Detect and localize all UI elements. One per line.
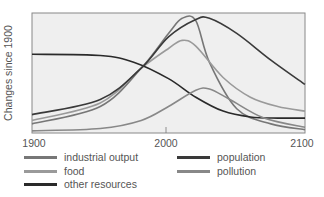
legend-item-other-resources: other resources: [24, 178, 137, 190]
legend-swatch: [24, 170, 57, 173]
legend-swatch: [177, 170, 210, 173]
legend-item-pollution: pollution: [177, 165, 256, 177]
legend-item-population: population: [177, 151, 265, 163]
x-tick-label-2000: 2000: [154, 137, 177, 149]
legend-swatch: [177, 156, 210, 159]
x-tick-label-1900: 1900: [22, 137, 45, 149]
legend-item-food: food: [24, 165, 84, 177]
legend-swatch: [24, 183, 57, 186]
legend-swatch: [24, 156, 57, 159]
x-tick-label-2100: 2100: [290, 137, 313, 149]
legend-item-industrial-output: industrial output: [24, 151, 138, 163]
